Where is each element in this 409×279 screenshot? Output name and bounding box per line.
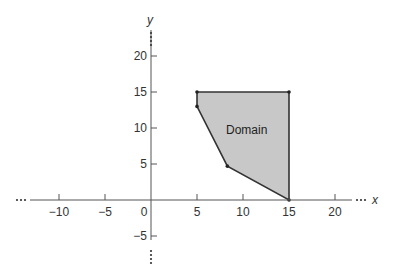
vertex-point bbox=[195, 90, 199, 94]
vertex-point bbox=[287, 90, 291, 94]
x-axis-label: x bbox=[371, 193, 379, 207]
y-tick-label: 15 bbox=[134, 85, 148, 99]
y-tick-label: 5 bbox=[140, 157, 147, 171]
vertex-point bbox=[226, 164, 230, 168]
x-tick-label: 0 bbox=[141, 205, 148, 219]
y-axis-label: y bbox=[146, 13, 154, 27]
x-tick-label: −5 bbox=[98, 205, 112, 219]
y-tick-label: 10 bbox=[134, 121, 148, 135]
y-tick-label: 20 bbox=[134, 49, 148, 63]
x-tick-label: 15 bbox=[282, 205, 296, 219]
y-tick-label: −5 bbox=[133, 229, 147, 243]
x-tick-label: 10 bbox=[236, 205, 250, 219]
x-axis-left-continuation bbox=[16, 199, 26, 201]
x-axis-ticks: −10−505101520 bbox=[49, 194, 342, 219]
x-tick-label: 5 bbox=[194, 205, 201, 219]
region-label: Domain bbox=[226, 123, 267, 137]
x-tick-label: 20 bbox=[328, 205, 342, 219]
domain-region bbox=[197, 92, 289, 200]
x-axis-right-continuation bbox=[356, 199, 366, 201]
x-tick-label: −10 bbox=[49, 205, 70, 219]
coordinate-plane: −10−505101520 −55101520 x y Domain bbox=[0, 0, 409, 279]
y-axis-bottom-continuation bbox=[150, 250, 152, 264]
vertex-point bbox=[195, 105, 199, 109]
